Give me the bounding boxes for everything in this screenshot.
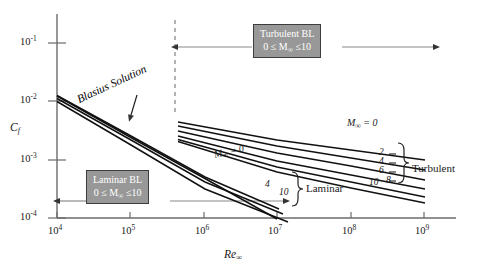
y-tick-label-1e-3: 10-3 — [20, 154, 37, 165]
y-tick-label-1e-4: 10-4 — [20, 212, 37, 223]
y-axis-title: Cf — [10, 122, 20, 134]
turbulent-mach-zero-label: M∞ = 0 — [347, 118, 377, 128]
callout-turbulent-bl: Turbulent BL 0 ≤ M∞ ≤10 — [253, 24, 321, 58]
turbulent-number-6: 6 — [379, 166, 384, 176]
x-tick-label-1e8: 108 — [342, 226, 356, 237]
callout-laminar-line2: 0 ≤ M∞ ≤10 — [93, 187, 142, 200]
x-tick-label-1e4: 104 — [48, 226, 62, 237]
laminar-number-4: 4 — [265, 180, 270, 190]
figure-skin-friction-chart: 10-1 10-2 10-3 10-4 Cf 104 105 106 107 1… — [0, 0, 477, 273]
turbulent-number-8: 8 — [386, 176, 391, 186]
x-tick-label-1e9: 109 — [415, 226, 429, 237]
chart-canvas — [0, 0, 477, 273]
laminar-group-label: Laminar — [306, 183, 343, 194]
callout-turbulent-line2: 0 ≤ M∞ ≤10 — [260, 41, 314, 54]
x-tick-label-1e5: 105 — [121, 226, 135, 237]
turbulent-curves — [178, 122, 425, 203]
laminar-number-10: 10 — [279, 188, 289, 198]
x-tick-label-1e6: 106 — [195, 226, 209, 237]
blasius-pointer-arrow — [131, 95, 137, 115]
turbulent-number-10: 10 — [369, 178, 379, 188]
x-axis-title: Re∞ — [224, 249, 242, 261]
callout-turbulent-line1: Turbulent BL — [260, 28, 314, 41]
x-tick-label-1e7: 107 — [268, 226, 282, 237]
turbulent-group-label: Turbulent — [412, 163, 455, 174]
callout-laminar-bl: Laminar BL 0 ≤ M∞ ≤10 — [86, 170, 149, 204]
callout-laminar-line1: Laminar BL — [93, 174, 142, 187]
y-tick-label-1e-2: 10-2 — [20, 95, 37, 106]
y-tick-label-1e-1: 10-1 — [20, 37, 37, 48]
